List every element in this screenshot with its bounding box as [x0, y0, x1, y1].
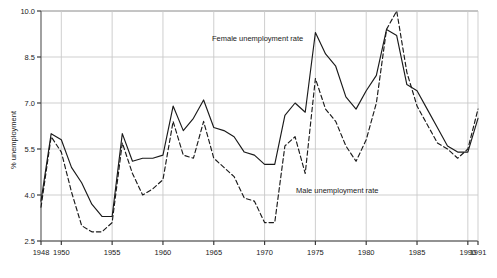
y-tick-label: 2.5: [25, 237, 35, 246]
y-tick-label: 10.0: [20, 7, 35, 16]
x-tick-label: 1985: [409, 248, 426, 257]
x-tick-label: 1955: [104, 248, 121, 257]
x-tick-label: 1975: [307, 248, 324, 257]
x-tick-label: 1960: [155, 248, 172, 257]
y-tick-label: 4.0: [25, 191, 35, 200]
x-tick-label: 1970: [256, 248, 273, 257]
unemployment-rate-chart: 2.54.05.57.08.510.0 19481950195519601965…: [0, 0, 497, 278]
x-tick-label: 1965: [205, 248, 222, 257]
x-tick-label: 1948: [33, 248, 50, 257]
y-tick-label: 5.5: [25, 145, 35, 154]
y-tick-label: 8.5: [25, 53, 35, 62]
chart-canvas: 2.54.05.57.08.510.0 19481950195519601965…: [0, 0, 497, 278]
x-tick-label: 1980: [358, 248, 375, 257]
series-label-male: Male unemployment rate: [296, 186, 379, 195]
x-tick-label: 1991: [470, 248, 487, 257]
y-tick-label: 7.0: [25, 99, 35, 108]
series-label-female: Female unemployment rate: [212, 34, 303, 43]
y-axis-title: % unemployment: [9, 110, 18, 169]
x-tick-label: 1950: [53, 248, 70, 257]
